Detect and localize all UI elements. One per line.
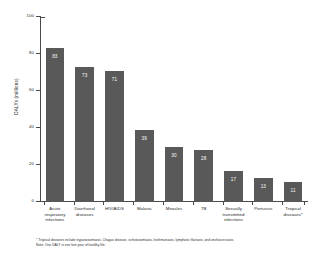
bar-slot: 71 bbox=[105, 17, 124, 202]
x-axis-category-label: Malaria bbox=[129, 206, 159, 212]
bar-slot: 73 bbox=[75, 17, 94, 202]
chart-figure: DALYs (millions) 020406080100 8373713930… bbox=[0, 0, 319, 259]
x-axis-category-label: Pertussis bbox=[248, 206, 278, 212]
x-axis-tick bbox=[193, 202, 194, 205]
x-axis-tick bbox=[44, 202, 45, 205]
bar-value-label: 30 bbox=[165, 153, 184, 158]
bar-value-label: 39 bbox=[135, 136, 154, 141]
bar-value-label: 71 bbox=[105, 77, 124, 82]
bar-slot: 11 bbox=[284, 17, 303, 202]
y-axis-tick-label: 40 bbox=[29, 124, 34, 129]
footnotes: * Tropical diseases include trypanosomia… bbox=[36, 238, 308, 247]
bar-value-label: 73 bbox=[75, 73, 94, 78]
bar[interactable] bbox=[46, 48, 65, 202]
x-axis-tick bbox=[282, 202, 283, 205]
x-axis-category-label: Diarrhoeal diseases bbox=[70, 206, 100, 217]
bar-value-label: 17 bbox=[224, 177, 243, 182]
x-axis-tick bbox=[252, 202, 253, 205]
x-axis-category-label: Sexually transmitted infections bbox=[219, 206, 249, 223]
bar[interactable] bbox=[254, 178, 273, 202]
x-axis-tick bbox=[74, 202, 75, 205]
bar-value-label: 11 bbox=[284, 188, 303, 193]
y-axis-tick-label: 100 bbox=[27, 13, 34, 18]
x-axis-category-label: TB bbox=[189, 206, 219, 212]
bar-slot: 13 bbox=[254, 17, 273, 202]
bar-value-label: 28 bbox=[194, 156, 213, 161]
bar[interactable] bbox=[75, 67, 94, 202]
x-axis-category-label: Tropical diseases* bbox=[278, 206, 308, 217]
bar-series: 837371393028171311 bbox=[40, 17, 308, 202]
bar-slot: 17 bbox=[224, 17, 243, 202]
bar[interactable] bbox=[105, 71, 124, 202]
plot-area: 020406080100 837371393028171311 bbox=[40, 17, 308, 202]
y-axis-tick-label: 80 bbox=[29, 50, 34, 55]
bar-slot: 30 bbox=[165, 17, 184, 202]
footnote-daly-definition: Note: One DALY is one lost year of healt… bbox=[36, 243, 308, 248]
y-axis-tick-label: 0 bbox=[32, 198, 35, 203]
bar-slot: 28 bbox=[194, 17, 213, 202]
x-axis-tick bbox=[223, 202, 224, 205]
y-axis-tick-label: 20 bbox=[29, 161, 34, 166]
x-axis-tick bbox=[163, 202, 164, 205]
y-axis-tick-label: 60 bbox=[29, 87, 34, 92]
x-axis-tick bbox=[304, 202, 305, 205]
bar-slot: 39 bbox=[135, 17, 154, 202]
x-axis-tick bbox=[133, 202, 134, 205]
bar-slot: 83 bbox=[46, 17, 65, 202]
x-axis-category-label: Acute respiratory infections bbox=[40, 206, 70, 223]
x-axis-category-label: HIV/AIDS bbox=[100, 206, 130, 212]
bar-value-label: 13 bbox=[254, 184, 273, 189]
bar[interactable] bbox=[224, 171, 243, 202]
x-axis-tick bbox=[103, 202, 104, 205]
bar-value-label: 83 bbox=[46, 54, 65, 59]
x-axis-category-label: Measles bbox=[159, 206, 189, 212]
y-axis-title: DALYs (millions) bbox=[14, 57, 19, 137]
x-axis-category-labels: Acute respiratory infectionsDiarrhoeal d… bbox=[40, 206, 308, 240]
